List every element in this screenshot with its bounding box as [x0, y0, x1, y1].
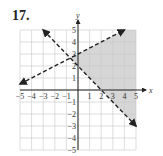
- y-tick-label: −3: [67, 122, 76, 131]
- inequality-graph: xy−5−4−3−2−11234554321−1−2−3−4−5: [0, 0, 163, 156]
- y-axis-label: y: [75, 11, 80, 20]
- x-tick-label: −4: [27, 92, 36, 101]
- x-tick-label: 5: [134, 92, 138, 101]
- x-tick-label: −5: [16, 92, 25, 101]
- x-tick-label: −3: [39, 92, 48, 101]
- x-tick-label: 2: [99, 92, 103, 101]
- y-tick-label: −4: [67, 134, 76, 143]
- y-tick-label: −2: [67, 110, 76, 119]
- y-tick-label: 4: [72, 38, 76, 47]
- y-tick-label: 1: [72, 74, 76, 83]
- y-tick-label: 3: [72, 50, 76, 59]
- y-tick-label: −5: [67, 146, 76, 155]
- x-tick-label: 4: [122, 92, 126, 101]
- x-axis-label: x: [148, 86, 153, 95]
- y-tick-label: −1: [67, 98, 76, 107]
- x-tick-label: 1: [88, 92, 92, 101]
- y-tick-label: 5: [72, 26, 76, 35]
- x-tick-label: 3: [111, 92, 115, 101]
- x-tick-label: −2: [51, 92, 60, 101]
